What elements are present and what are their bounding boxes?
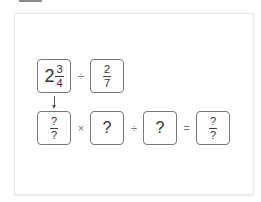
answer-box-4[interactable]: ? ? <box>196 111 230 145</box>
denominator-blank: ? <box>210 129 216 141</box>
multiply-operator: × <box>75 122 87 134</box>
divide-operator: ÷ <box>75 70 87 82</box>
denominator: 4 <box>56 77 62 89</box>
top-tab-bar <box>19 0 42 2</box>
blank: ? <box>103 119 112 137</box>
down-arrow-icon <box>54 96 55 107</box>
blank: ? <box>156 119 165 137</box>
mixed-number-box: 2 3 4 <box>37 59 71 93</box>
answer-box-1[interactable]: ? ? <box>37 111 71 145</box>
numerator: 3 <box>55 64 63 77</box>
answer-box-2[interactable]: ? <box>90 111 124 145</box>
numerator: 2 <box>103 64 111 77</box>
denominator: 7 <box>104 77 110 89</box>
denominator-blank: ? <box>51 129 57 141</box>
numerator-blank: ? <box>50 116 58 129</box>
problem-frame <box>14 13 254 195</box>
answer-box-3[interactable]: ? <box>143 111 177 145</box>
whole-part: 2 <box>44 66 54 87</box>
mixed-fraction: 3 4 <box>55 64 63 89</box>
equals-operator: = <box>181 122 193 134</box>
fraction-box: 2 7 <box>90 59 124 93</box>
numerator-blank: ? <box>209 116 217 129</box>
divide-operator: ÷ <box>128 122 140 134</box>
